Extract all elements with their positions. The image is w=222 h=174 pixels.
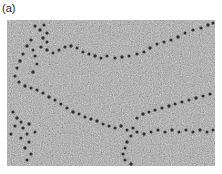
- electron-micrograph: [7, 20, 215, 166]
- micrograph-image: [7, 20, 215, 166]
- panel-label: (a): [2, 1, 15, 15]
